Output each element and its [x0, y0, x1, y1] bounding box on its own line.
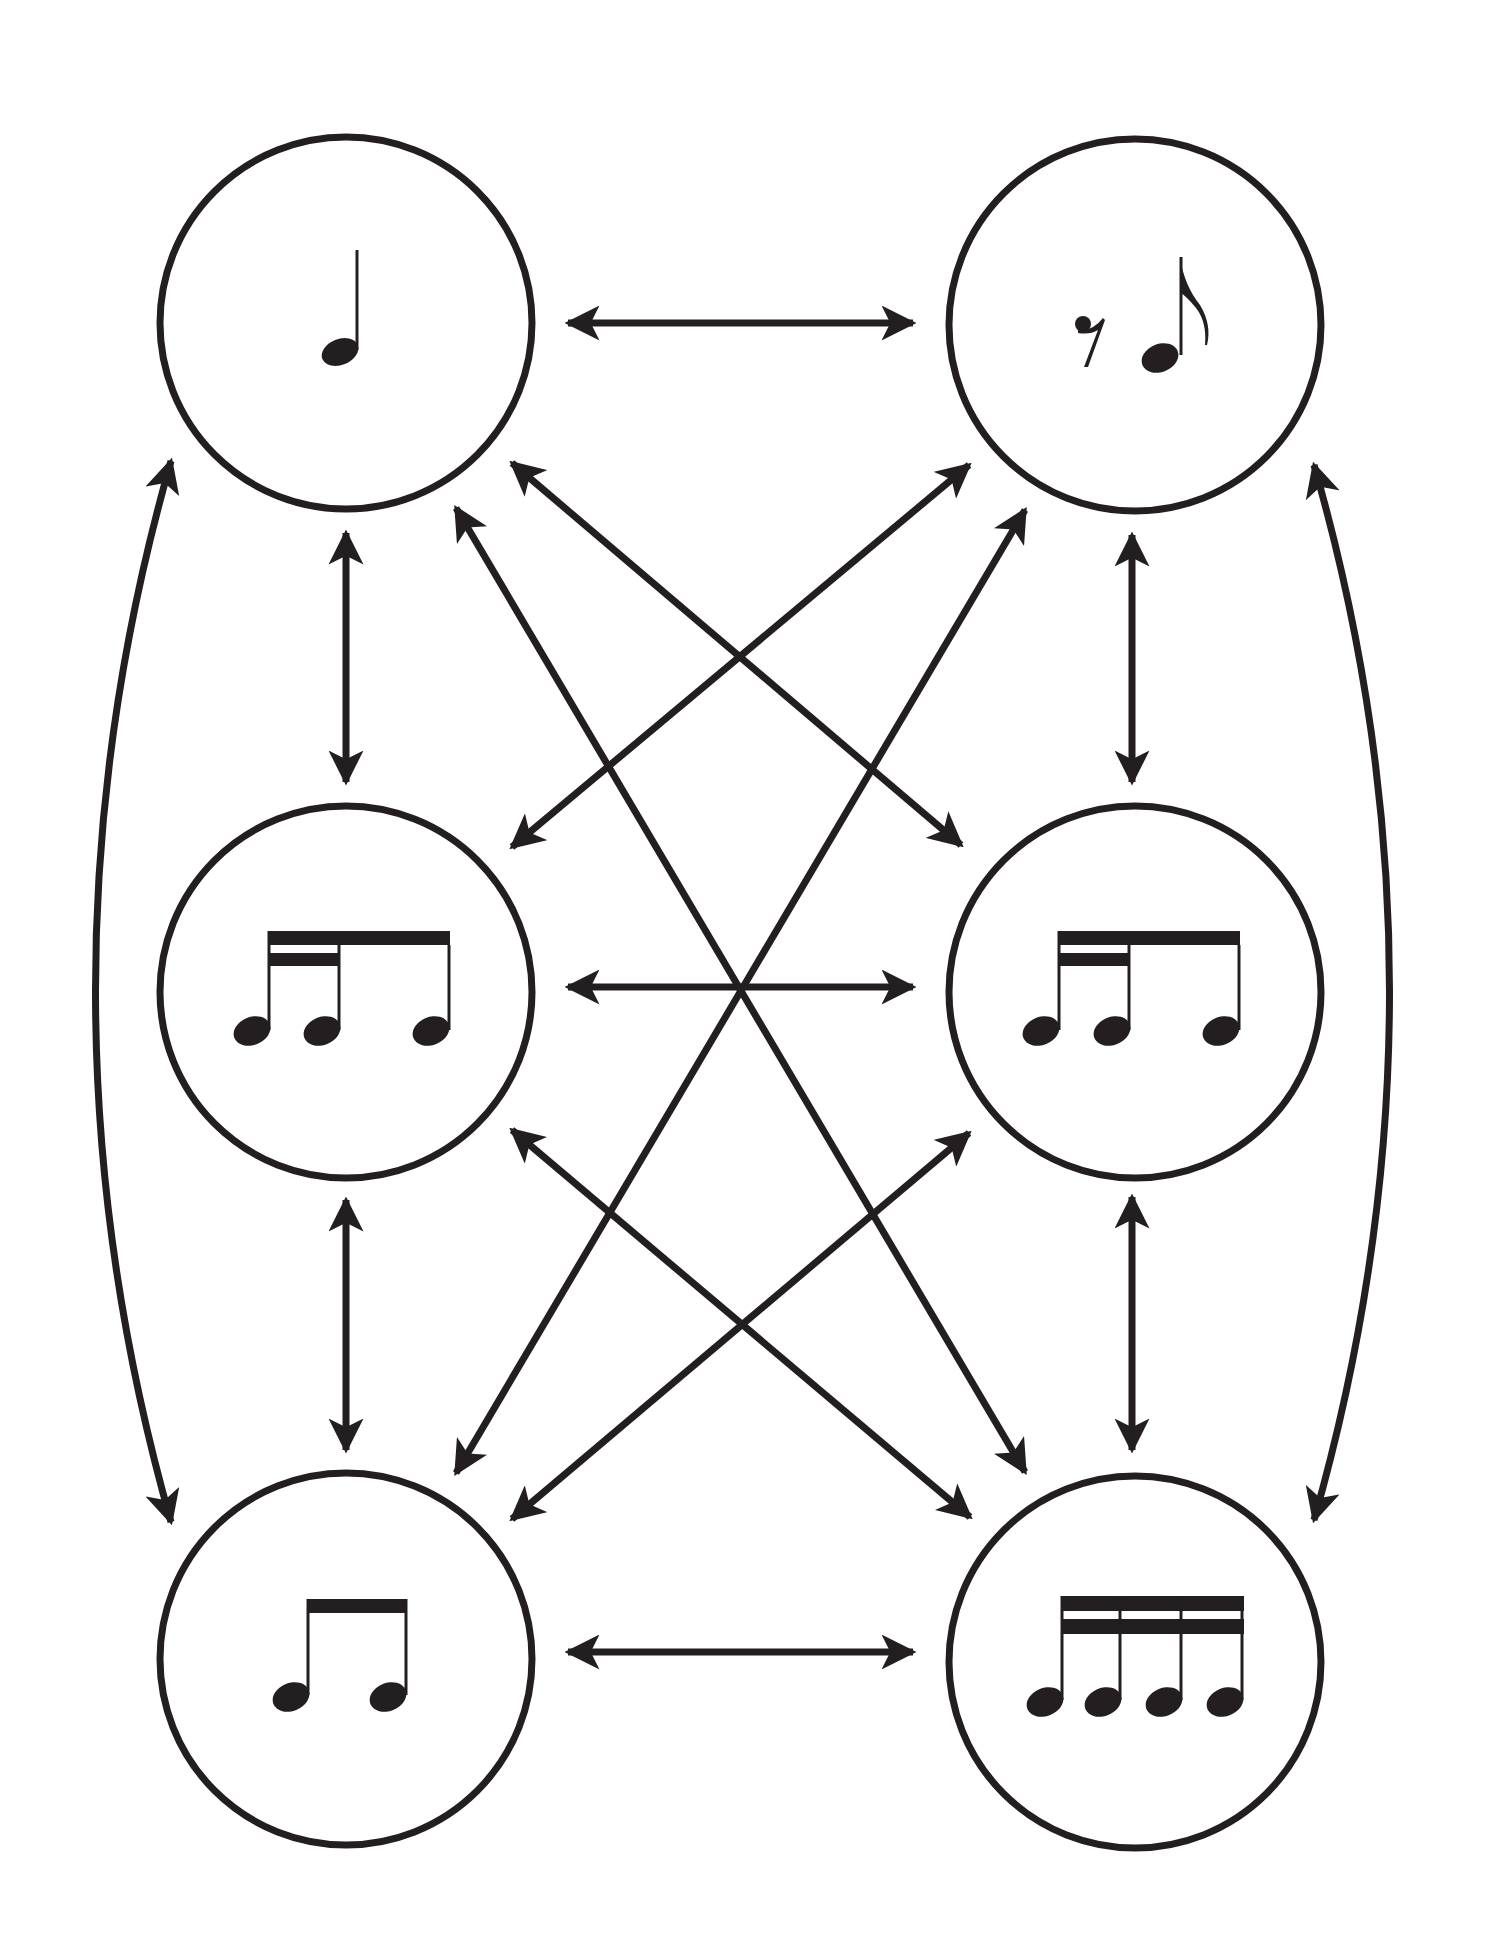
node-quarter-note	[160, 137, 532, 509]
rhythm-graph	[0, 0, 1486, 1945]
node-sixteenth-sixteenth-eighth-right	[949, 806, 1321, 1178]
edge-tr-br-curved	[1314, 465, 1390, 1520]
node-sixteenth-sixteenth-eighth-left	[160, 806, 532, 1178]
node-two-eighth-notes	[160, 1473, 532, 1845]
node-eighth-rest-eighth-note	[949, 139, 1321, 511]
node-four-sixteenth-notes	[949, 1476, 1321, 1848]
